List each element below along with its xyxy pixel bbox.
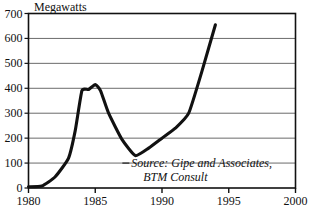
y-tick-label-700: 700 xyxy=(5,7,23,21)
y-tick-label-400: 400 xyxy=(5,81,23,95)
y-tick-label-500: 500 xyxy=(5,56,23,70)
chart-title: Megawatts xyxy=(34,0,87,14)
y-tick-label-0: 0 xyxy=(17,181,23,195)
x-tick-label-1980: 1980 xyxy=(17,194,41,208)
x-tick-label-1990: 1990 xyxy=(150,194,174,208)
chart-figure: 0100200300400500600700 19801985199019952… xyxy=(0,0,312,216)
source-note-line-1: Source: Gipe and Associates, xyxy=(131,156,272,170)
y-tick-label-300: 300 xyxy=(5,106,23,120)
y-tick-label-600: 600 xyxy=(5,31,23,45)
x-tick-label-1985: 1985 xyxy=(83,194,107,208)
line-chart: 0100200300400500600700 19801985199019952… xyxy=(0,0,312,216)
source-note-line-2: BTM Consult xyxy=(143,170,208,184)
x-tick-label-1995: 1995 xyxy=(217,194,241,208)
y-tick-label-100: 100 xyxy=(5,156,23,170)
y-tick-label-200: 200 xyxy=(5,131,23,145)
x-tick-label-2000: 2000 xyxy=(284,194,308,208)
